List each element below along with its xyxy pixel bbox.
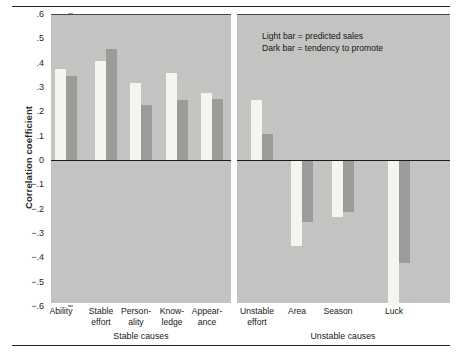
group-label-unstable: Unstable causes [263,331,423,341]
bar-light [291,161,302,246]
x-category-label-line2: effort [227,317,287,328]
chart-legend: Light bar = predicted sales Dark bar = t… [262,30,383,54]
y-tick-label: −.1 [31,179,44,189]
legend-entry-light: Light bar = predicted sales [262,30,383,42]
group-label-stable: Stable causes [61,331,221,341]
bar-light [95,61,106,161]
y-tick-label: −.3 [31,228,44,238]
bar-dark [66,76,77,161]
bar-dark [177,100,188,161]
bar-light [55,69,66,161]
bar-light [388,161,399,305]
x-category-label-line1: Season [308,306,368,317]
y-axis-tick-labels: .6.5.4.3.2.10−.1−.2−.3−.4−.5−.6 [22,14,44,302]
bar-light [201,93,212,161]
bar-dark [399,161,410,263]
bar-dark [343,161,354,212]
bar-dark [106,49,117,161]
bar-dark [212,99,223,161]
y-tick-label: .4 [36,58,44,68]
bottom-rule [12,345,450,346]
bar-dark [141,105,152,161]
top-rule [12,6,450,7]
y-tick-label: −.5 [31,277,44,287]
plot-panel-stable [51,14,231,303]
y-tick-label: 0 [39,155,44,165]
y-tick-label: −.4 [31,252,44,262]
y-tick-label: .5 [36,33,44,43]
y-tick-label: .6 [36,9,44,19]
bar-light [251,100,262,161]
x-category-label: Season [308,306,368,317]
zero-line-right [237,160,450,161]
y-tick-label: .2 [36,106,44,116]
bar-dark [262,134,273,161]
plot-panel-unstable [237,14,450,303]
bar-dark [302,161,313,222]
legend-entry-dark: Dark bar = tendency to promote [262,42,383,54]
y-tick-label: .3 [36,82,44,92]
x-category-label-line1: Luck [364,306,424,317]
y-tick-label: −.2 [31,204,44,214]
bar-light [130,83,141,161]
x-category-label: Luck [364,306,424,317]
y-tick-label: .1 [36,131,44,141]
bar-light [332,161,343,217]
bar-light [166,73,177,161]
chart-figure: Correlation coefficient .6.5.4.3.2.10−.1… [0,0,457,357]
zero-line-left [51,160,231,161]
